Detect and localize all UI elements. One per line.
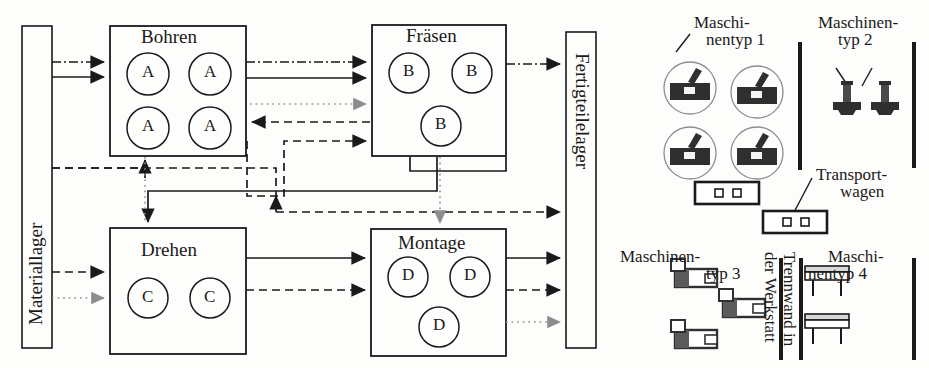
transport-cart-icon [763, 211, 827, 233]
machine-type-1-icon [737, 133, 777, 165]
legend-machine-type-1-icons [670, 68, 777, 165]
legend-label-machine-type-1: Maschi- nentyp 1 [694, 14, 765, 49]
legend-line-1: Maschinen- [620, 248, 740, 265]
leader-machine-type-1 [676, 34, 690, 52]
legend-transport-cart-icons [695, 182, 827, 233]
legend-label-transport: Transport- wagen [816, 166, 887, 201]
store-label-materiallager: Materiallager [26, 223, 45, 325]
machine-label-a: A [204, 63, 216, 80]
legend-line-1: Maschi- [828, 248, 884, 265]
legend-line-2: typ 2 [838, 31, 898, 48]
station-title-fraesen: Fräsen [406, 26, 457, 45]
store-label-fertigteilelager: Fertigteilelager [573, 53, 592, 169]
machine-label-b: B [435, 115, 446, 132]
legend-line-1: Maschinen- [818, 14, 898, 31]
station-title-montage: Montage [398, 233, 466, 252]
legend-label-machine-type-2: Maschinen- typ 2 [818, 14, 898, 49]
legend-line-1: Maschi- [694, 14, 765, 31]
machine-type-2-icon [871, 81, 899, 115]
legend-line-2: nentyp 1 [706, 31, 765, 48]
transport-cart-icon [695, 182, 759, 204]
machine-label-c: C [142, 288, 153, 305]
leader-machine-type-2-right [862, 68, 872, 86]
legend-label-machine-type-3: Maschinen- typ 3 [620, 248, 740, 283]
machine-label-d: D [433, 316, 445, 333]
machine-circles [127, 53, 492, 347]
legend-line-2: typ 3 [706, 265, 740, 282]
machine-label-d: D [402, 266, 414, 283]
legend-label-partition-line2: der Werkstatt [762, 252, 779, 342]
flow-solid-fraesen-down-right [410, 157, 506, 171]
machine-label-d: D [464, 266, 476, 283]
diagram-canvas: Bohren Fräsen Drehen Montage A A A A B B… [0, 0, 929, 368]
station-title-drehen: Drehen [141, 240, 197, 259]
legend-label-machine-type-4: Maschi- nentyp 4 [828, 248, 884, 283]
machine-type-1-icon [670, 133, 710, 165]
machine-type-3-icon [719, 289, 765, 317]
legend-label-partition-line1: Trennwand in [781, 252, 798, 346]
legend-line-2: nentyp 4 [808, 265, 884, 282]
legend-line-2: wagen [840, 183, 887, 200]
machine-label-b: B [403, 62, 414, 79]
store-boxes [22, 26, 596, 348]
machine-label-a: A [204, 117, 216, 134]
machine-label-a: A [142, 63, 154, 80]
machine-type-3-icon [671, 320, 717, 348]
machine-type-1-icon [670, 68, 710, 100]
station-title-bohren: Bohren [141, 27, 197, 46]
machine-label-a: A [142, 117, 154, 134]
machine-type-4-icon [805, 314, 849, 344]
machine-label-b: B [466, 62, 477, 79]
legend-machine-type-2-icons [833, 81, 899, 115]
legend-line-1: Transport- [816, 166, 887, 183]
machine-type-2-icon [833, 81, 861, 115]
machine-type-1-icon [737, 72, 777, 104]
flow-lines [52, 62, 560, 322]
machine-label-c: C [204, 288, 215, 305]
